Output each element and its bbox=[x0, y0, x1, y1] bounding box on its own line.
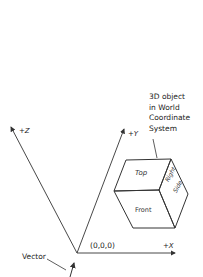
object-note-line-2: in World bbox=[149, 103, 190, 114]
z-axis-label: +Z bbox=[19, 128, 30, 135]
vector-arrow bbox=[70, 263, 74, 277]
object-note-line-3: Coordinate bbox=[149, 113, 190, 124]
vector-label: Vector bbox=[22, 253, 46, 261]
y-axis-label: +Y bbox=[128, 131, 138, 138]
vector-leader-line bbox=[47, 259, 66, 270]
note-leader-line bbox=[153, 139, 157, 158]
object-note: 3D object in World Coordinate System bbox=[149, 92, 190, 134]
cube-front-label: Front bbox=[135, 207, 151, 214]
z-axis bbox=[11, 127, 77, 253]
origin-label: (0,0,0) bbox=[90, 242, 115, 250]
x-axis-label: +X bbox=[163, 243, 174, 250]
object-note-line-4: System bbox=[149, 124, 190, 135]
coordinate-diagram bbox=[0, 0, 203, 277]
cube-top-label: Top bbox=[135, 170, 147, 177]
object-note-line-1: 3D object bbox=[149, 92, 190, 103]
